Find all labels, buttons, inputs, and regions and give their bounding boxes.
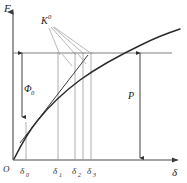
curve-group — [14, 29, 180, 159]
tick-subscript-delta3: 3 — [92, 172, 96, 178]
figure-canvas: F δ O K 0 Φ 0 P δ 0 δ 1 δ 2 δ 3 — [0, 0, 187, 183]
force-displacement-figure: F δ O K 0 Φ 0 P δ 0 δ 1 δ 2 δ 3 — [0, 0, 187, 183]
origin-label: O — [3, 164, 10, 174]
tick-subscript-delta2: 2 — [78, 172, 81, 178]
leader-line-5 — [62, 54, 72, 66]
tick-label-delta3: δ 3 — [87, 166, 96, 178]
leader-line-2 — [51, 27, 76, 55]
load-deflection-curve — [14, 29, 180, 159]
annotation-left-span: Φ 0 — [24, 83, 35, 96]
tick-label-delta1: δ 1 — [53, 166, 62, 178]
tick-symbol-delta3: δ — [87, 166, 92, 176]
tick-symbol-delta1: δ — [53, 166, 58, 176]
tick-symbol-delta0: δ — [20, 166, 25, 176]
tick-label-delta2: δ 2 — [72, 166, 81, 178]
leader-line-4 — [54, 27, 92, 54]
tick-symbol-delta2: δ — [72, 166, 77, 176]
annotation-stiffness: K 0 — [40, 13, 52, 26]
x-axis-label: δ — [172, 166, 178, 178]
stiffness-superscript: 0 — [48, 13, 52, 20]
leader-lines-group — [49, 27, 92, 66]
tick-label-delta0: δ 0 — [20, 166, 29, 178]
axes-group — [13, 12, 178, 160]
right-span-label: P — [127, 90, 134, 101]
y-axis-label: F — [3, 2, 11, 14]
vertical-guide-lines — [26, 52, 91, 160]
tick-subscript-delta0: 0 — [26, 172, 29, 178]
tick-subscript-delta1: 1 — [59, 172, 62, 178]
left-span-subscript: 0 — [31, 89, 35, 96]
